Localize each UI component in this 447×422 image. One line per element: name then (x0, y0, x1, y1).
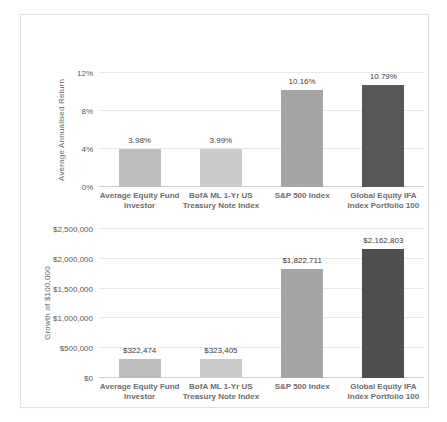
y-tick-label: $500,000 (60, 344, 93, 353)
growth-chart: Growth of $100,000 $0$500,000$1,000,000$… (21, 15, 428, 407)
growth-plot-area: $0$500,000$1,000,000$1,500,000$2,000,000… (99, 229, 424, 378)
gridline (99, 228, 424, 229)
y-tick-label: $0 (84, 374, 93, 383)
performance-comparison-card: Average Annualised Return 0%4%8%12%3.98%… (20, 14, 429, 408)
x-category-label: BofA ML 1-Yr US Treasury Note Index (180, 382, 261, 403)
x-category-label: Global Equity IFA Index Portfolio 100 (343, 382, 424, 403)
x-category-label: S&P 500 Index (262, 382, 343, 403)
bar-value-label: $2,162,803 (338, 236, 428, 245)
growth-category-labels: Average Equity Fund InvestorBofA ML 1-Yr… (99, 382, 424, 403)
y-tick-label: $2,500,000 (53, 225, 93, 234)
bar (281, 269, 323, 378)
bar (362, 249, 404, 378)
bar-value-label: $323,405 (176, 346, 266, 355)
y-tick-label: $2,000,000 (53, 254, 93, 263)
y-tick-label: $1,500,000 (53, 284, 93, 293)
bar (119, 359, 161, 378)
x-category-label: Average Equity Fund Investor (99, 382, 180, 403)
bar-value-label: $322,474 (95, 346, 185, 355)
y-tick-label: $1,000,000 (53, 314, 93, 323)
bar-value-label: $1,822,711 (257, 256, 347, 265)
bar (200, 359, 242, 378)
y-axis-title-growth: Growth of $100,000 (43, 229, 52, 378)
